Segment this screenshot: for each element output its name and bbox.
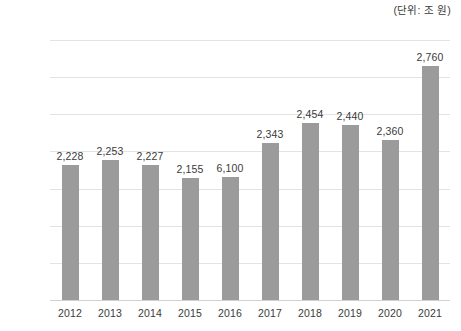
bar-slot: 2,454 (290, 40, 330, 300)
bar-slot: 2,440 (330, 40, 370, 300)
bar[interactable]: 2,454 (302, 123, 319, 300)
bar[interactable]: 2,440 (342, 125, 359, 300)
bar[interactable]: 2,343 (262, 143, 279, 300)
bar-slot: 2,227 (130, 40, 170, 300)
x-axis-tick-label: 2015 (170, 303, 210, 325)
gridline (50, 300, 450, 301)
bar-slot: 2,228 (50, 40, 90, 300)
bar-value-label: 2,454 (297, 108, 324, 120)
bar-slot: 2,760 (410, 40, 450, 300)
bar[interactable]: 2,360 (382, 140, 399, 300)
unit-note: (단위: 조 원) (393, 2, 451, 17)
x-axis-tick-label: 2021 (410, 303, 450, 325)
x-axis-tick-label: 2020 (370, 303, 410, 325)
bar-slot: 2,155 (170, 40, 210, 300)
bar-slot: 6,100 (210, 40, 250, 300)
bar[interactable]: 2,228 (62, 165, 79, 300)
bar[interactable]: 2,253 (102, 160, 119, 300)
bar-slot: 2,253 (90, 40, 130, 300)
bar-value-label: 2,343 (257, 128, 284, 140)
bar[interactable]: 2,155 (182, 178, 199, 300)
bar[interactable]: 6,100 (222, 177, 239, 300)
bar-series: 2,2282,2532,2272,1556,1002,3432,4542,440… (50, 40, 450, 300)
bar[interactable]: 2,760 (422, 66, 439, 300)
bar-value-label: 2,228 (57, 150, 84, 162)
bar-value-label: 2,360 (377, 125, 404, 137)
bar-value-label: 6,100 (217, 162, 244, 174)
bar[interactable]: 2,227 (142, 165, 159, 300)
plot-area: 2,9002,7002,5002,3002,1001,9001,7001,500… (50, 40, 450, 300)
bar-slot: 2,360 (370, 40, 410, 300)
bar-value-label: 2,760 (417, 51, 444, 63)
x-axis-tick-label: 2018 (290, 303, 330, 325)
bar-value-label: 2,227 (137, 150, 164, 162)
x-axis-tick-label: 2013 (90, 303, 130, 325)
bar-chart: (단위: 조 원) 2,9002,7002,5002,3002,1001,900… (0, 0, 461, 331)
x-axis: 2012201320142015201620172018201920202021 (50, 303, 450, 325)
x-axis-tick-label: 2017 (250, 303, 290, 325)
x-axis-tick-label: 2019 (330, 303, 370, 325)
x-axis-tick-label: 2012 (50, 303, 90, 325)
bar-value-label: 2,155 (177, 163, 204, 175)
bar-value-label: 2,440 (337, 110, 364, 122)
x-axis-tick-label: 2014 (130, 303, 170, 325)
bar-slot: 2,343 (250, 40, 290, 300)
bar-value-label: 2,253 (97, 145, 124, 157)
x-axis-tick-label: 2016 (210, 303, 250, 325)
